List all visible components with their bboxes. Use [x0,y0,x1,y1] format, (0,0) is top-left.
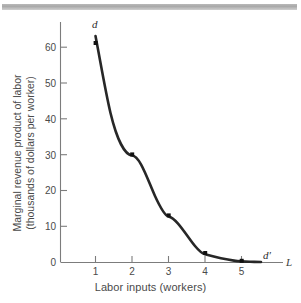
data-point-2 [130,152,134,156]
figure-root: 60 50 40 30 20 10 0 1 2 3 4 5 d d′ L [0,0,301,303]
y-tick-label-60: 60 [45,42,57,53]
y-tick-label-30: 30 [45,150,57,161]
y-tick-label-10: 10 [45,221,57,232]
y-tick-label-0: 0 [50,257,56,268]
y-tick-label-40: 40 [45,114,57,125]
x-tick-label-1: 1 [93,266,99,277]
curve-end-label-d-prime: d′ [263,249,272,261]
data-point-4 [203,251,207,255]
data-point-5 [240,259,244,263]
x-tick-label-2: 2 [129,266,135,277]
x-tick-label-5: 5 [239,266,245,277]
curve-start-label-d: d [92,18,98,30]
y-tick-label-50: 50 [45,78,57,89]
mrp-demand-curve [96,36,262,262]
chart-plot-area: 60 50 40 30 20 10 0 1 2 3 4 5 d d′ L [0,0,301,303]
data-point-1 [94,41,98,45]
x-axis-variable-label: L [285,256,292,268]
x-tick-label-4: 4 [202,266,208,277]
x-axis-caption: Labor inputs (workers) [0,281,301,293]
x-tick-label-3: 3 [166,266,172,277]
y-tick-label-20: 20 [45,185,57,196]
data-point-3 [167,213,171,217]
